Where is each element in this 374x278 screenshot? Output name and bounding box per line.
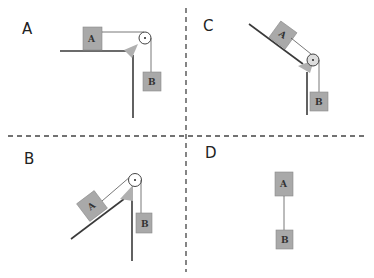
- block-a: A: [77, 191, 108, 222]
- panel-d: D A B: [205, 144, 293, 249]
- panel-label-a: A: [22, 20, 33, 38]
- block-a-label: A: [279, 179, 288, 189]
- block-b-label: B: [148, 77, 156, 87]
- rope: [291, 38, 311, 54]
- pulley-diagram: A A B C A B B A: [0, 0, 374, 278]
- panel-label-c: C: [203, 17, 213, 35]
- panel-c: C A B: [203, 17, 328, 115]
- panel-label-b: B: [24, 150, 34, 168]
- pulley-axle: [144, 37, 146, 39]
- block-a: A: [269, 21, 297, 49]
- panel-a: A A B: [22, 20, 161, 118]
- block-b-label: B: [281, 235, 289, 245]
- block-b-label: B: [141, 219, 149, 229]
- block-a-label: A: [87, 34, 96, 44]
- panel-label-d: D: [205, 144, 217, 162]
- block-b-label: B: [315, 97, 323, 107]
- pulley-support: [120, 185, 133, 201]
- pulley-support: [124, 44, 138, 58]
- panel-b: B A B: [24, 150, 152, 261]
- pulley-axle: [312, 59, 314, 61]
- pulley-axle: [134, 179, 136, 181]
